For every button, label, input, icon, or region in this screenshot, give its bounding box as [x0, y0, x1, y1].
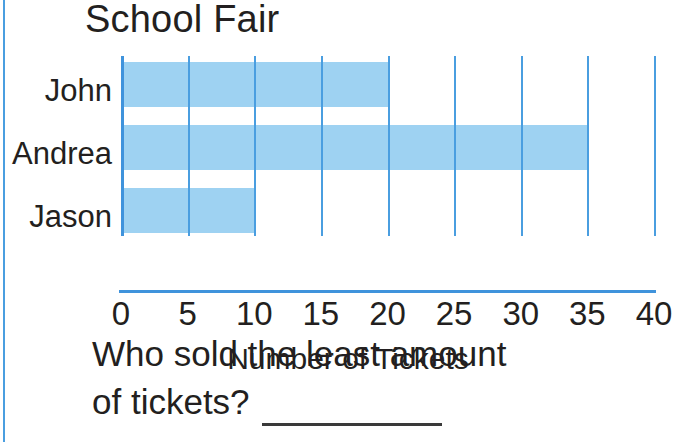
gridline-40 — [654, 56, 656, 236]
category-axis-labels: John Andrea Jason — [0, 56, 112, 236]
gridline-10 — [254, 56, 256, 236]
bar-andrea — [121, 125, 587, 170]
answer-blank[interactable] — [262, 393, 442, 426]
gridline-0 — [121, 56, 124, 236]
category-label-andrea: Andrea — [0, 138, 112, 169]
plot-area — [121, 56, 654, 236]
x-tick-label-35: 35 — [557, 296, 617, 332]
category-label-jason: Jason — [0, 201, 112, 232]
bar-chart: John Andrea Jason 0510152025303540 Numbe… — [0, 56, 696, 238]
gridline-30 — [521, 56, 523, 236]
gridline-35 — [587, 56, 589, 236]
gridline-20 — [388, 56, 390, 236]
category-label-john: John — [0, 75, 112, 106]
question-line-2-text: of tickets? — [92, 382, 250, 421]
x-tick-label-5: 5 — [158, 296, 218, 332]
gridline-5 — [188, 56, 190, 236]
x-axis-baseline — [119, 290, 656, 293]
x-tick-label-40: 40 — [624, 296, 684, 332]
gridline-15 — [321, 56, 323, 236]
x-tick-label-0: 0 — [91, 296, 151, 332]
question-line-1: Who sold the least amount — [92, 330, 692, 378]
x-tick-label-30: 30 — [491, 296, 551, 332]
x-tick-label-15: 15 — [291, 296, 351, 332]
chart-title: School Fair — [85, 0, 279, 41]
x-tick-label-20: 20 — [358, 296, 418, 332]
x-tick-label-25: 25 — [424, 296, 484, 332]
question-line-2: of tickets? — [92, 378, 692, 426]
worksheet-page: School Fair John Andrea Jason 0510152025… — [0, 0, 696, 442]
x-tick-label-10: 10 — [224, 296, 284, 332]
question-block: Who sold the least amount of tickets? — [92, 330, 692, 426]
gridline-25 — [454, 56, 456, 236]
